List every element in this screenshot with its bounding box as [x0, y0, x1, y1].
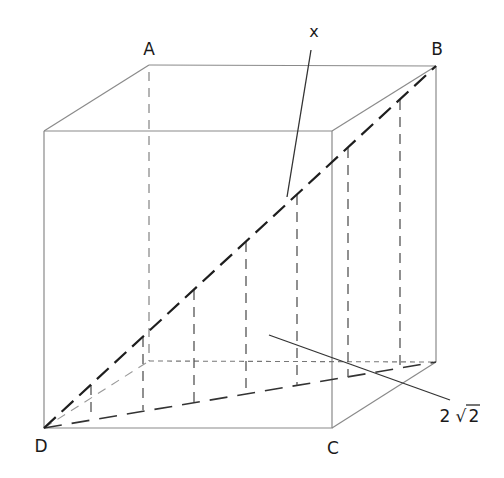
front-face: [44, 131, 332, 428]
vertex-label-d: D: [34, 436, 47, 456]
base-diagonal-label: 2 √ 2: [440, 405, 480, 426]
cube-diagram: A B C D x 2 √ 2: [0, 0, 504, 478]
hidden-left-bottom-edge: [44, 361, 149, 428]
top-right-edge: [332, 66, 436, 131]
base-diagonal-line: [44, 362, 436, 428]
base-diagonal-radicand: 2: [469, 406, 480, 426]
space-diagonal-label: x: [309, 22, 318, 41]
top-back-edge: [149, 65, 436, 66]
top-left-edge: [44, 65, 149, 131]
vertex-label-a: A: [143, 39, 155, 59]
base-diagonal-leader-line: [269, 335, 450, 400]
vertex-label-c: C: [327, 438, 339, 458]
radical-sign-icon: √: [456, 406, 467, 426]
hidden-back-bottom-edge: [149, 361, 436, 362]
x-leader-line: [287, 50, 311, 197]
vertex-label-b: B: [431, 39, 443, 59]
base-diagonal-coefficient: 2: [440, 406, 451, 426]
diagonal-plane-risers: [91, 100, 400, 418]
